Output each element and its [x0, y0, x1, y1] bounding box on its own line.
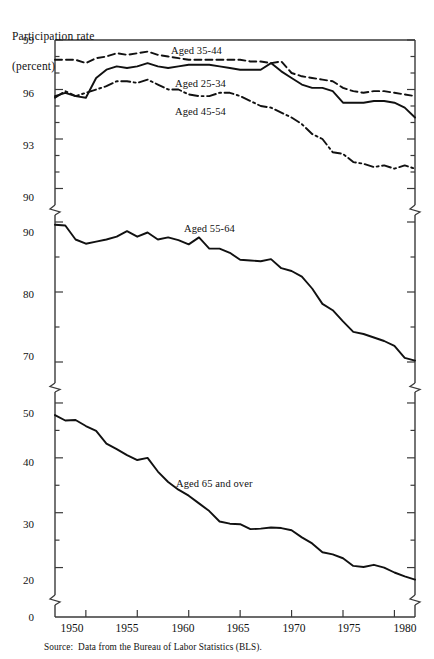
xtick-label-1965: 1965: [215, 622, 261, 634]
ytick-label-96: 96: [8, 88, 34, 99]
figure-root: Participation rate (percent) 99 96 93 90…: [0, 0, 434, 659]
ytick-label-80: 80: [8, 289, 34, 300]
ytick-label-99: 99: [8, 35, 34, 46]
source-label: Source:: [44, 642, 73, 652]
source-text: Data from the Bureau of Labor Statistics…: [78, 642, 262, 652]
series-label-aged-25-34: Aged 25-34: [175, 78, 226, 90]
y-axis-title-line2: (percent): [12, 59, 94, 74]
y-axis-title: Participation rate (percent): [12, 14, 94, 89]
ytick-label-30: 30: [8, 519, 34, 530]
ytick-label-93: 93: [8, 140, 34, 151]
series-label-aged-65-and-over: Aged 65 and over: [176, 478, 253, 490]
ytick-label-90-middle: 90: [8, 227, 34, 238]
source-note: Source:Data from the Bureau of Labor Sta…: [44, 642, 262, 653]
ytick-label-90-upper: 90: [8, 192, 34, 203]
series-label-aged-45-54: Aged 45-54: [175, 106, 226, 118]
xtick-label-1975: 1975: [326, 622, 372, 634]
xtick-label-1950: 1950: [49, 622, 95, 634]
ytick-label-70: 70: [8, 351, 34, 362]
xtick-label-1970: 1970: [271, 622, 317, 634]
series-label-aged-55-64: Aged 55-64: [184, 223, 235, 235]
xtick-label-1980: 1980: [382, 622, 428, 634]
ytick-label-20: 20: [8, 575, 34, 586]
ytick-label-50: 50: [8, 408, 34, 419]
xtick-label-1960: 1960: [160, 622, 206, 634]
ytick-label-0: 0: [8, 612, 34, 623]
ytick-label-40: 40: [8, 457, 34, 468]
series-label-aged-35-44: Aged 35-44: [171, 45, 222, 57]
plot-area: [0, 0, 434, 659]
xtick-label-1955: 1955: [104, 622, 150, 634]
